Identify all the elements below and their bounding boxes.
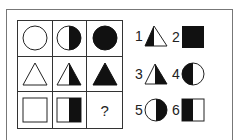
square-empty-icon bbox=[22, 97, 48, 123]
grid-cell-circle-full bbox=[87, 21, 122, 57]
option-2[interactable]: 2 bbox=[172, 25, 205, 49]
triangle-right-half-icon bbox=[144, 63, 168, 85]
matrix-grid: ? bbox=[17, 20, 123, 129]
triangle-full-icon bbox=[92, 61, 118, 87]
option-6[interactable]: 6 bbox=[172, 98, 205, 122]
grid-cell-circle-half bbox=[53, 21, 88, 57]
grid-cell-missing: ? bbox=[87, 92, 122, 128]
grid-cell-triangle-full bbox=[87, 57, 122, 93]
option-3[interactable]: 3 bbox=[135, 63, 168, 85]
triangle-left-half-icon bbox=[144, 25, 168, 47]
triangle-right-half-icon bbox=[56, 61, 82, 87]
grid-cell-circle-empty bbox=[18, 21, 53, 57]
question-mark: ? bbox=[100, 102, 108, 119]
option-number: 6 bbox=[172, 102, 180, 118]
grid-cell-triangle-half bbox=[53, 57, 88, 93]
square-right-half-icon bbox=[56, 97, 82, 123]
option-4[interactable]: 4 bbox=[172, 62, 205, 86]
circle-right-half-icon bbox=[144, 98, 168, 122]
grid-cell-square-half bbox=[53, 92, 88, 128]
square-left-half-icon bbox=[181, 98, 205, 122]
option-5[interactable]: 5 bbox=[135, 98, 168, 122]
option-number: 2 bbox=[172, 29, 180, 45]
grid-cell-triangle-empty bbox=[18, 57, 53, 93]
square-full-icon bbox=[181, 25, 205, 49]
circle-right-half-icon bbox=[56, 25, 82, 51]
circle-empty-icon bbox=[22, 25, 48, 51]
option-number: 1 bbox=[135, 28, 143, 44]
option-number: 5 bbox=[135, 102, 143, 118]
option-number: 3 bbox=[135, 66, 143, 82]
circle-left-half-icon bbox=[181, 62, 205, 86]
triangle-empty-icon bbox=[22, 61, 48, 87]
option-1[interactable]: 1 bbox=[135, 25, 168, 47]
grid-cell-square-empty bbox=[18, 92, 53, 128]
option-number: 4 bbox=[172, 66, 180, 82]
circle-full-icon bbox=[92, 25, 118, 51]
